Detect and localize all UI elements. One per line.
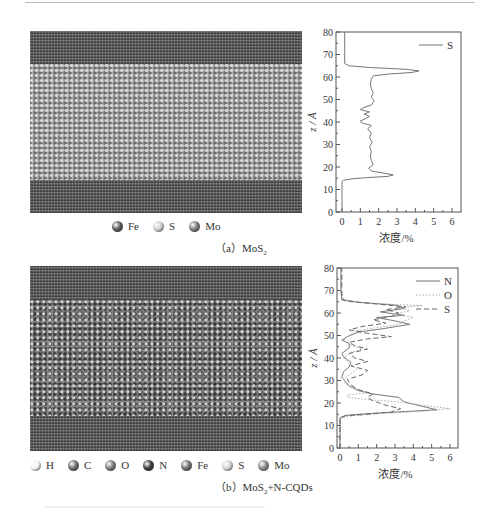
x-tick-label: 0 [338,452,343,463]
y-tick-label: 70 [324,285,334,296]
x-tick-label: 4 [411,452,416,463]
chart-legend-label: O [444,289,452,301]
x-tick-label: 6 [447,452,452,463]
chart-legend-label: N [444,275,452,287]
chart-legend-label: S [444,303,450,315]
y-tick-label: 30 [324,375,334,386]
y-tick-label: 50 [324,330,334,341]
y-tick-label: 80 [324,263,334,274]
chart-svg: 010203040506070800123456浓度/%z / ÅNOS [0,0,489,514]
page-footer-rule [45,506,265,508]
y-tick-label: 20 [324,398,334,409]
x-tick-label: 5 [429,452,434,463]
series-line-s [340,268,406,448]
x-tick-label: 2 [374,452,379,463]
y-tick-label: 40 [324,353,334,364]
x-tick-label: 3 [392,452,397,463]
y-axis-label: z / Å [307,348,319,369]
y-tick-label: 60 [324,308,334,319]
x-axis-label: 浓度/% [378,467,412,480]
y-tick-label: 0 [329,443,334,454]
y-tick-label: 10 [324,420,334,431]
density-profile-chart-b: 010203040506070800123456浓度/%z / ÅNOS [0,0,489,514]
x-tick-label: 1 [356,452,361,463]
